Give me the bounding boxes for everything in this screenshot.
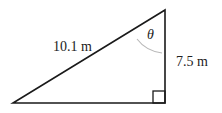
right-angle-marker [153,91,165,103]
triangle [13,10,165,103]
vertical-side-label: 7.5 m [176,54,208,69]
right-triangle-diagram: 10.1 m 7.5 m θ [0,0,222,113]
angle-theta-label: θ [147,27,154,42]
hypotenuse-label: 10.1 m [53,39,92,54]
